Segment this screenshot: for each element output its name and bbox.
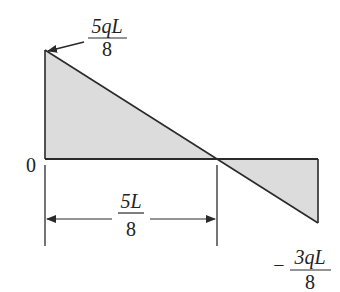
max-negative-label: − 3qL 8 bbox=[273, 246, 331, 292]
origin-label: 0 bbox=[26, 154, 36, 176]
max-positive-label: 5qL 8 bbox=[88, 15, 127, 60]
shear-force-diagram: 5qL 8 0 5L 8 − 3qL 8 bbox=[0, 0, 340, 292]
max-positive-numerator: 5qL bbox=[91, 15, 122, 38]
max-negative-numerator: 3qL bbox=[293, 246, 325, 269]
max-negative-denominator: 8 bbox=[305, 271, 315, 292]
distance-denominator: 8 bbox=[126, 218, 136, 240]
max-negative-sign: − bbox=[273, 254, 284, 276]
max-positive-pointer-arrow bbox=[48, 42, 84, 51]
max-positive-denominator: 8 bbox=[102, 38, 112, 60]
zero-crossing-distance-label: 5L 8 bbox=[118, 190, 144, 240]
distance-numerator: 5L bbox=[120, 190, 141, 212]
